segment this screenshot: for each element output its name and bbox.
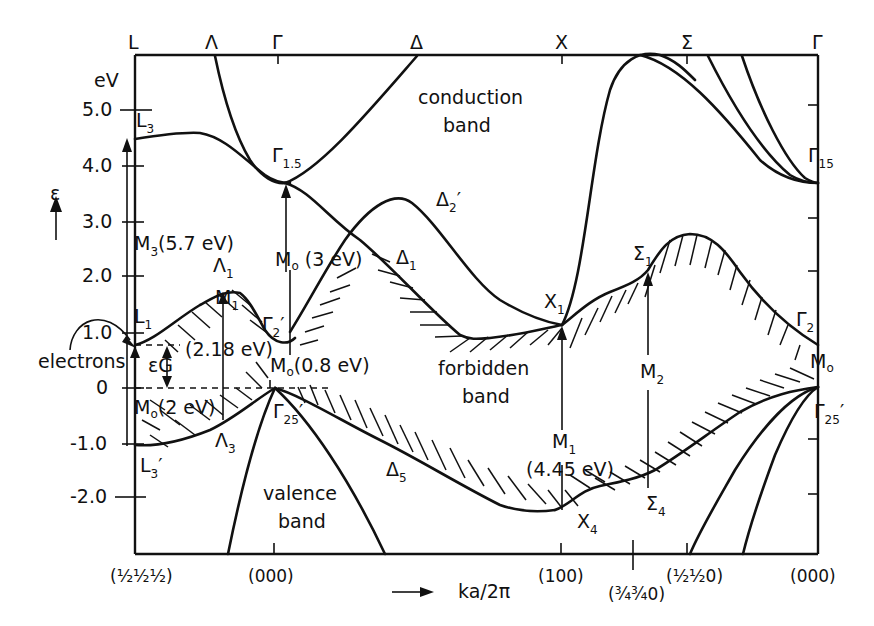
label-L: L: [128, 31, 139, 53]
forbidden-band-label-line2: band: [462, 385, 510, 407]
band-structure-diagram: 5.0 4.0 3.0 2.0 1.0 0 -1.0 -2.0 eV ε L Λ…: [0, 0, 874, 626]
forbidden-band-label: forbidden: [438, 357, 529, 379]
cp-M1-X-value: (4.45 eV): [526, 458, 614, 480]
gap-label: εG: [148, 354, 173, 376]
y-tick-label: 1.0: [82, 321, 112, 343]
point-Gamma15: Γ1.5: [272, 144, 302, 171]
k-label: (¾¾0): [608, 584, 665, 604]
label-delta: Δ: [410, 31, 423, 53]
point-L3prime: L3′: [140, 454, 163, 481]
y-axis-labels: 5.0 4.0 3.0 2.0 1.0 0 -1.0 -2.0 eV ε: [50, 69, 119, 507]
point-Gamma25prime: Γ25′: [273, 400, 303, 427]
point-Sigma1: Σ1: [633, 242, 653, 269]
right-arrow-icon: [420, 587, 434, 597]
k-label: (000): [248, 566, 294, 586]
y-tick-label: 5.0: [82, 98, 112, 120]
cp-M0-0.8eV: Mo(0.8 eV): [270, 354, 370, 379]
cp-M1-X: M1: [552, 430, 576, 457]
point-X1: X1: [544, 290, 565, 317]
region-labels: conduction band forbidden band valence b…: [38, 86, 529, 532]
critical-point-labels: M3(5.7 eV) M1 (2.18 eV) Mo(2 eV) Mo (3 e…: [134, 232, 834, 480]
cp-M0-3eV: Mo (3 eV): [275, 248, 362, 273]
point-Lambda1: Λ1: [213, 254, 234, 281]
y-tick-label: -2.0: [70, 485, 107, 507]
down-arrow-icon: [162, 376, 172, 388]
label-lambda: Λ: [205, 31, 218, 53]
conduction-band-label-line2: band: [443, 114, 491, 136]
label-sigma: Σ: [681, 31, 693, 53]
point-Delta5: Δ5: [386, 458, 407, 485]
y-tick-label: 3.0: [82, 210, 112, 232]
y-tick-label: -1.0: [70, 432, 107, 454]
valence-band-label: valence: [263, 482, 337, 504]
up-arrow-icon: [122, 138, 132, 152]
cp-M0-2eV: Mo(2 eV): [134, 396, 215, 421]
point-Lambda3: Λ3: [215, 429, 236, 456]
up-arrow-icon: [281, 184, 291, 198]
symmetry-point-labels: L3 L1 L3′ Λ1 Λ3 Γ1.5 Γ2′ Γ25′ Δ2′ Δ1 Δ5 …: [134, 109, 844, 537]
cp-M1: M1: [215, 286, 239, 313]
label-gamma: Γ: [272, 31, 283, 53]
cp-M0-right: Mo: [810, 350, 834, 375]
cp-M2: M2: [640, 360, 664, 387]
k-label: (½½0): [666, 566, 723, 586]
valence-band-label-line2: band: [278, 510, 326, 532]
point-Gamma2prime: Γ2′: [262, 313, 285, 340]
point-Delta1: Δ1: [396, 246, 417, 273]
top-symmetry-labels: L Λ Γ Δ X Σ Γ: [128, 31, 823, 53]
y-tick-label: 0: [96, 376, 108, 398]
point-X4: X4: [577, 510, 598, 537]
bottom-k-labels: (½½½) (000) (100) (¾¾0) (½½0) (000) ka/2…: [110, 566, 836, 604]
k-label: (000): [790, 566, 836, 586]
point-Sigma4: Σ4: [646, 492, 666, 519]
point-Delta2prime: Δ2′: [436, 188, 461, 215]
label-gamma-end: Γ: [812, 31, 823, 53]
label-X: X: [555, 31, 568, 53]
x-axis-label: ka/2π: [458, 580, 510, 602]
y-tick-label: 4.0: [82, 154, 112, 176]
y-unit-label: eV: [94, 69, 119, 91]
point-L3: L3: [136, 109, 154, 136]
y-tick-label: 2.0: [82, 264, 112, 286]
cp-M1-value: (2.18 eV): [185, 338, 273, 360]
up-arrow-icon: [130, 346, 140, 358]
point-Gamma15-right: Γ15: [808, 144, 834, 171]
k-label: (100): [538, 566, 584, 586]
point-L1: L1: [134, 305, 152, 332]
electrons-label: electrons: [38, 350, 126, 372]
conduction-band-label: conduction: [418, 86, 523, 108]
k-label: (½½½): [110, 566, 173, 586]
